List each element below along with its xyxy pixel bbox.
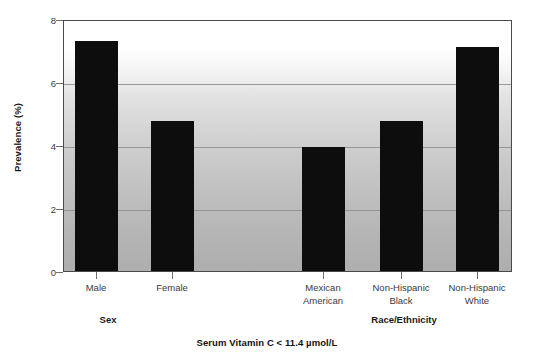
x-tick-mark-mexican-american [323, 272, 324, 279]
chart-caption: Serum Vitamin C < 11.4 µmol/L [0, 337, 534, 348]
gridline-4 [64, 147, 511, 148]
y-tick-mark-4 [56, 146, 63, 147]
y-tick-mark-6 [56, 83, 63, 84]
y-axis-title-text: Prevalence (%) [12, 103, 23, 172]
x-label-male-line1: Male [86, 282, 107, 293]
y-axis-tick-labels: 0 2 4 6 8 [26, 0, 56, 353]
y-axis-title: Prevalence (%) [6, 0, 28, 275]
x-tick-mark-male [96, 272, 97, 279]
y-tick-label-2: 2 [30, 204, 56, 215]
bar-non-hispanic-white [456, 47, 499, 271]
x-tick-mark-non-hispanic-white [477, 272, 478, 279]
group-label-race-ethnicity: Race/Ethnicity [344, 314, 464, 325]
bar-mexican-american [302, 147, 345, 271]
x-tick-mark-female [172, 272, 173, 279]
gridline-2 [64, 210, 511, 211]
y-tick-label-6: 6 [30, 78, 56, 89]
y-tick-mark-8 [56, 20, 63, 21]
x-label-non-hispanic-white-line1: Non-Hispanic [448, 282, 505, 293]
y-tick-label-8: 8 [30, 15, 56, 26]
x-label-female: Female [124, 282, 220, 295]
y-tick-mark-2 [56, 209, 63, 210]
x-label-non-hispanic-black-line1: Non-Hispanic [372, 282, 429, 293]
x-tick-mark-non-hispanic-black [401, 272, 402, 279]
x-label-mexican-american-line1: Mexican [305, 282, 340, 293]
gridline-6 [64, 84, 511, 85]
y-tick-label-0: 0 [30, 267, 56, 278]
group-label-sex: Sex [60, 314, 156, 325]
y-tick-mark-0 [56, 272, 63, 273]
x-label-non-hispanic-white: Non-Hispanic White [429, 282, 525, 307]
bar-chart-figure: Prevalence (%) 0 2 4 6 8 Male Female [0, 0, 534, 353]
bar-female [151, 121, 194, 271]
bar-non-hispanic-black [380, 121, 423, 271]
plot-area [63, 20, 512, 272]
bar-male [75, 41, 118, 271]
y-tick-label-4: 4 [30, 141, 56, 152]
x-label-non-hispanic-white-line2: White [429, 295, 525, 308]
x-label-female-line1: Female [156, 282, 188, 293]
